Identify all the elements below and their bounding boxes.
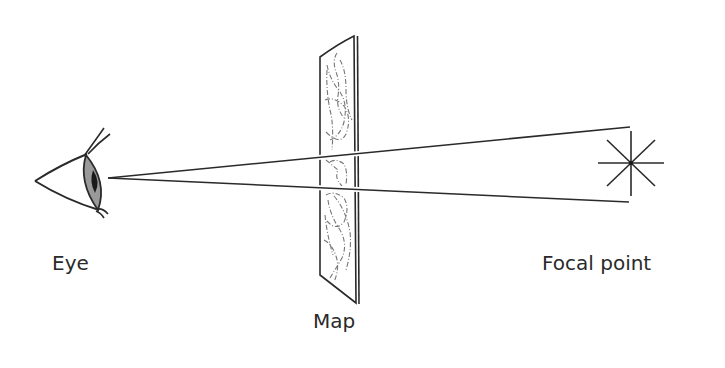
eye-icon [35, 128, 110, 218]
upper-sight-line [108, 127, 630, 178]
perspective-diagram [0, 0, 725, 368]
sight-lines [108, 127, 630, 202]
map-panel [320, 36, 359, 304]
map-label: Map [313, 311, 355, 331]
lower-sight-line [108, 178, 629, 202]
asterisk-star-icon [598, 131, 664, 196]
focal-point-label: Focal point [542, 253, 651, 273]
eye-label: Eye [52, 253, 89, 273]
